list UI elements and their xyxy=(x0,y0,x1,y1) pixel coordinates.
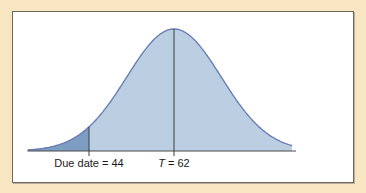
normal-distribution-chart: Due date = 44 T = 62 xyxy=(0,0,366,193)
shaded-tail-area xyxy=(28,127,89,151)
curve-area xyxy=(28,29,293,151)
due-date-label: Due date = 44 xyxy=(54,157,123,169)
t-value: = 62 xyxy=(165,157,190,169)
mean-label: T = 62 xyxy=(158,157,190,169)
